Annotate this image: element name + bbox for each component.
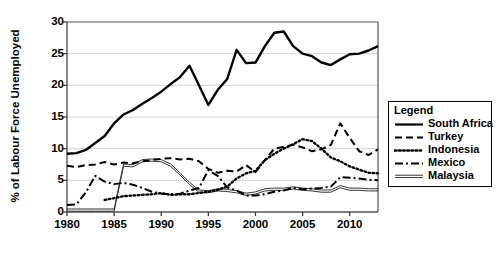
legend-item-label: Malaysia xyxy=(428,170,474,182)
legend-item-turkey[interactable]: Turkey xyxy=(394,131,487,144)
legend-item-label: Mexico xyxy=(428,157,465,169)
series-line-south-africa xyxy=(67,32,378,154)
legend-swatch-dashdot-icon xyxy=(394,158,424,169)
legend-item-indonesia[interactable]: Indonesia xyxy=(394,144,487,157)
legend-swatch-dotted-icon xyxy=(394,145,424,156)
legend-item-label: South Africa xyxy=(428,118,493,130)
legend-swatch-dashed-icon xyxy=(394,132,424,143)
legend-item-mexico[interactable]: Mexico xyxy=(394,157,487,170)
legend-items: South AfricaTurkeyIndonesiaMexicoMalaysi… xyxy=(394,118,487,183)
legend-item-label: Turkey xyxy=(428,131,463,143)
legend: Legend South AfricaTurkeyIndonesiaMexico… xyxy=(388,101,492,187)
legend-item-label: Indonesia xyxy=(428,144,479,156)
legend-item-south-africa[interactable]: South Africa xyxy=(394,118,487,131)
legend-item-malaysia[interactable]: Malaysia xyxy=(394,170,487,183)
legend-title: Legend xyxy=(394,105,487,117)
legend-swatch-solid-icon xyxy=(394,119,424,130)
series-line-turkey xyxy=(67,123,378,172)
series-line-malaysia xyxy=(67,159,378,209)
chart-figure: % of Labour Force Unemployed 05101520253… xyxy=(0,0,497,256)
legend-swatch-double-icon xyxy=(394,171,424,182)
